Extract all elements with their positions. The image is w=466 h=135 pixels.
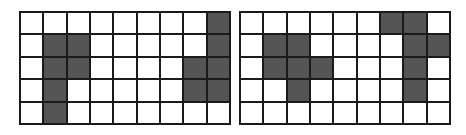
grid-cell-empty xyxy=(241,35,262,55)
grid-cell-empty xyxy=(114,13,135,33)
grid-cell-empty xyxy=(241,80,262,100)
grid-cell-filled xyxy=(404,80,425,100)
grid-cell-empty xyxy=(208,103,229,123)
grid-cell-empty xyxy=(184,35,205,55)
grid-cell-empty xyxy=(184,103,205,123)
grid-cell-empty xyxy=(288,13,309,33)
grid-cell-empty xyxy=(68,13,89,33)
grid-cell-empty xyxy=(138,80,159,100)
grid-cell-empty xyxy=(114,35,135,55)
grid-cell-empty xyxy=(21,58,42,78)
grid-cell-filled xyxy=(208,13,229,33)
grid-cell-empty xyxy=(428,58,449,78)
grid-cell-empty xyxy=(91,58,112,78)
grid-cell-empty xyxy=(311,35,332,55)
grid-cell-empty xyxy=(428,13,449,33)
grid-cell-empty xyxy=(381,80,402,100)
grid-cell-empty xyxy=(241,13,262,33)
grid-cell-empty xyxy=(161,103,182,123)
grid-cell-filled xyxy=(184,80,205,100)
grid-cell-empty xyxy=(381,35,402,55)
grid-cell-filled xyxy=(264,35,285,55)
left-grid xyxy=(19,11,231,125)
grid-cell-filled xyxy=(208,80,229,100)
grid-cell-filled xyxy=(381,13,402,33)
grid-cell-empty xyxy=(161,58,182,78)
grid-cell-filled xyxy=(288,58,309,78)
grid-cell-empty xyxy=(138,103,159,123)
grid-cell-filled xyxy=(404,58,425,78)
grid-cell-empty xyxy=(358,80,379,100)
grid-cell-empty xyxy=(428,103,449,123)
grid-cell-filled xyxy=(44,80,65,100)
grid-cell-empty xyxy=(264,80,285,100)
grid-cell-empty xyxy=(381,103,402,123)
grid-cell-empty xyxy=(161,13,182,33)
grid-cell-empty xyxy=(21,103,42,123)
grid-cell-filled xyxy=(404,35,425,55)
grid-cell-empty xyxy=(264,13,285,33)
grid-cell-empty xyxy=(381,58,402,78)
grid-cell-empty xyxy=(91,103,112,123)
grid-cell-filled xyxy=(68,35,89,55)
grid-cell-filled xyxy=(288,35,309,55)
grid-cell-filled xyxy=(44,103,65,123)
grid-cell-empty xyxy=(68,80,89,100)
grid-cell-empty xyxy=(114,58,135,78)
grid-cell-filled xyxy=(208,58,229,78)
grid-cell-filled xyxy=(404,13,425,33)
grid-cell-empty xyxy=(21,35,42,55)
grid-cell-filled xyxy=(184,58,205,78)
grid-cell-empty xyxy=(91,13,112,33)
grid-cell-empty xyxy=(68,103,89,123)
grid-cell-empty xyxy=(334,35,355,55)
grid-cell-empty xyxy=(138,13,159,33)
grid-cell-empty xyxy=(334,80,355,100)
grid-cell-filled xyxy=(68,58,89,78)
grid-cell-empty xyxy=(91,80,112,100)
grid-cell-empty xyxy=(334,13,355,33)
grid-cell-empty xyxy=(161,35,182,55)
grid-cell-empty xyxy=(138,58,159,78)
grid-cell-empty xyxy=(21,80,42,100)
grid-cell-empty xyxy=(241,103,262,123)
grid-cell-empty xyxy=(114,103,135,123)
grid-cell-empty xyxy=(161,80,182,100)
grid-cell-empty xyxy=(288,103,309,123)
grid-cell-empty xyxy=(241,58,262,78)
grid-cell-empty xyxy=(334,58,355,78)
grid-cell-filled xyxy=(44,58,65,78)
grid-cell-empty xyxy=(311,103,332,123)
grid-cell-empty xyxy=(114,80,135,100)
grid-cell-filled xyxy=(44,35,65,55)
grid-cell-empty xyxy=(334,103,355,123)
grid-cell-filled xyxy=(288,80,309,100)
grid-cell-empty xyxy=(428,80,449,100)
right-grid xyxy=(239,11,451,125)
grid-cell-filled xyxy=(428,35,449,55)
grid-cell-empty xyxy=(358,13,379,33)
grid-cell-empty xyxy=(358,103,379,123)
grid-cell-empty xyxy=(21,13,42,33)
grid-cell-empty xyxy=(91,35,112,55)
grid-cell-empty xyxy=(358,58,379,78)
grid-cell-empty xyxy=(264,103,285,123)
grid-cell-filled xyxy=(311,58,332,78)
grid-cell-empty xyxy=(311,13,332,33)
grid-cell-empty xyxy=(138,35,159,55)
grid-cell-empty xyxy=(311,80,332,100)
grid-cell-filled xyxy=(208,35,229,55)
grid-cell-empty xyxy=(404,103,425,123)
grid-cell-empty xyxy=(358,35,379,55)
grid-cell-empty xyxy=(184,13,205,33)
grid-cell-empty xyxy=(44,13,65,33)
grid-cell-filled xyxy=(264,58,285,78)
